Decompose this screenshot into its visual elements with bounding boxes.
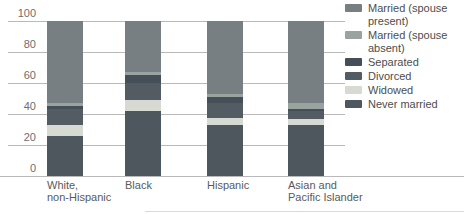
x-axis-label-hispanic: Hispanic [207,179,249,191]
y-axis-tick-label: 60 [0,70,36,81]
bar-segment-married-spouse-present [125,21,161,72]
bar-segment-never-married [125,111,161,176]
bar-segment-divorced [125,83,161,100]
y-axis-tick-label: 80 [0,39,36,50]
marital-status-stacked-bar-chart: Married (spouse present)Married (spouse … [0,0,464,214]
bar-segment-widowed [47,125,83,136]
legend-item-married-spouse-absent: Married (spouse absent) [345,29,463,55]
legend-swatch-separated [345,58,362,66]
legend-swatch-married-spouse-absent [345,31,362,39]
legend-item-separated: Separated [345,56,463,69]
legend-item-widowed: Widowed [345,84,463,97]
legend-label: Married (spouse absent) [368,29,462,55]
x-axis-label-line: non-Hispanic [47,191,111,203]
legend-swatch-never-married [345,100,362,108]
legend-item-never-married: Never married [345,98,463,111]
bar-segment-married-spouse-present [288,21,324,103]
bar-segment-divorced [288,111,324,119]
bar-segment-widowed [207,118,243,125]
stacked-bar-black [125,21,161,176]
bar-segment-divorced [47,109,83,125]
gridline-y0 [0,176,464,177]
stacked-bar-white-non-hispanic [47,21,83,176]
bar-segment-widowed [125,100,161,111]
legend-label: Divorced [368,70,462,83]
legend-swatch-married-spouse-present [345,4,362,12]
x-axis-label-line: Pacific Islander [288,191,363,203]
bar-segment-never-married [288,125,324,176]
y-axis-tick-label: 20 [0,132,36,143]
legend-item-divorced: Divorced [345,70,463,83]
bar-segment-separated [125,75,161,83]
x-axis-label-line: Asian and [288,179,363,191]
legend-swatch-divorced [345,72,362,80]
x-axis-label-line: White, [47,179,111,191]
bar-segment-never-married [47,136,83,176]
x-axis-label-asian-and-pacific-islander: Asian andPacific Islander [288,179,363,203]
stacked-bar-hispanic [207,21,243,176]
stacked-bar-asian-and-pacific-islander [288,21,324,176]
bar-segment-divorced [207,103,243,118]
bar-segment-married-spouse-present [207,21,243,94]
bar-segment-never-married [207,125,243,176]
legend-swatch-widowed [345,86,362,94]
x-axis-label-line: Black [125,179,152,191]
x-axis-label-black: Black [125,179,152,191]
y-axis-tick-label: 100 [0,8,36,19]
y-axis-tick-label: 0 [0,163,36,174]
legend-label: Never married [368,98,462,111]
bar-segment-married-spouse-present [47,21,83,103]
legend-item-married-spouse-present: Married (spouse present) [345,2,463,28]
x-axis-label-white-non-hispanic: White,non-Hispanic [47,179,111,203]
x-axis-label-line: Hispanic [207,179,249,191]
legend-label: Married (spouse present) [368,2,462,28]
y-axis-tick-label: 40 [0,101,36,112]
bottom-border-line [145,211,464,212]
legend-label: Widowed [368,84,462,97]
legend-label: Separated [368,56,462,69]
legend: Married (spouse present)Married (spouse … [345,2,463,112]
